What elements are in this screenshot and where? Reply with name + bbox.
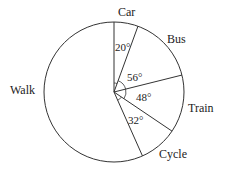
angle-train: 48° [136,91,151,103]
angle-car: 20° [115,41,130,53]
label-train: Train [188,101,214,115]
label-walk: Walk [10,83,35,97]
label-car: Car [118,5,135,19]
pie-chart: Car Bus Train Cycle Walk 20° 56° 48° 32° [0,0,226,177]
pie-slices [44,22,184,162]
angle-cycle: 32° [128,114,143,126]
angle-bus: 56° [127,71,142,83]
label-bus: Bus [167,32,186,46]
label-cycle: Cycle [159,147,187,161]
